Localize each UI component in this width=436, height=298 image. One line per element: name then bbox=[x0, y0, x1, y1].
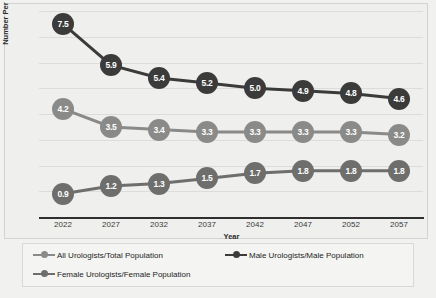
data-point-label: 4.8 bbox=[340, 82, 362, 104]
data-point-label: 3.3 bbox=[244, 121, 266, 143]
data-point-label: 5.4 bbox=[148, 67, 170, 89]
data-point-label: 4.6 bbox=[388, 88, 410, 110]
data-point-label: 1.7 bbox=[244, 162, 266, 184]
chart-page: Number Per 100,000 4.23.53.43.33.33.33.3… bbox=[0, 0, 436, 298]
legend-item-female-urologists: Female Urologists/Female Population bbox=[33, 269, 190, 279]
chart-legend: All Urologists/Total Population Female U… bbox=[22, 243, 414, 287]
data-point-label: 1.2 bbox=[100, 175, 122, 197]
x-tick-label: 2047 bbox=[278, 220, 328, 229]
data-point-label: 3.2 bbox=[388, 124, 410, 146]
chart-frame: Number Per 100,000 4.23.53.43.33.33.33.3… bbox=[4, 3, 428, 239]
plot-area: 4.23.53.43.33.33.33.33.27.55.95.45.25.04… bbox=[39, 11, 423, 217]
data-point-label: 4.2 bbox=[52, 98, 74, 120]
legend-marker-icon-all bbox=[33, 250, 55, 260]
legend-marker-icon-male bbox=[225, 250, 247, 260]
data-point-label: 5.0 bbox=[244, 77, 266, 99]
legend-item-male-urologists: Male Urologists/Male Population bbox=[225, 250, 364, 260]
x-axis-title: Year bbox=[39, 232, 424, 241]
series-lines bbox=[39, 11, 423, 217]
data-point-label: 3.4 bbox=[148, 119, 170, 141]
legend-label-all: All Urologists/Total Population bbox=[57, 251, 163, 260]
legend-label-male: Male Urologists/Male Population bbox=[249, 251, 364, 260]
data-point-label: 7.5 bbox=[52, 13, 74, 35]
data-point-label: 3.5 bbox=[100, 116, 122, 138]
x-axis-line bbox=[39, 217, 424, 219]
data-point-label: 3.3 bbox=[340, 121, 362, 143]
data-point-label: 5.2 bbox=[196, 72, 218, 94]
x-tick-label: 2052 bbox=[326, 220, 376, 229]
data-point-label: 3.3 bbox=[196, 121, 218, 143]
x-tick-label: 2037 bbox=[182, 220, 232, 229]
legend-item-all-urologists: All Urologists/Total Population bbox=[33, 250, 163, 260]
y-axis-title: Number Per 100,000 bbox=[1, 0, 10, 64]
legend-marker-icon-female bbox=[33, 269, 55, 279]
data-point-label: 1.5 bbox=[196, 167, 218, 189]
x-tick-label: 2032 bbox=[134, 220, 184, 229]
data-point-label: 1.8 bbox=[388, 160, 410, 182]
x-tick-label: 2022 bbox=[38, 220, 88, 229]
data-point-label: 1.3 bbox=[148, 173, 170, 195]
data-point-label: 3.3 bbox=[292, 121, 314, 143]
data-point-label: 0.9 bbox=[52, 183, 74, 205]
legend-label-female: Female Urologists/Female Population bbox=[57, 270, 190, 279]
x-tick-label: 2057 bbox=[374, 220, 424, 229]
data-point-label: 4.9 bbox=[292, 80, 314, 102]
data-point-label: 1.8 bbox=[340, 160, 362, 182]
data-point-label: 1.8 bbox=[292, 160, 314, 182]
x-tick-label: 2027 bbox=[86, 220, 136, 229]
data-point-label: 5.9 bbox=[100, 54, 122, 76]
x-tick-label: 2042 bbox=[230, 220, 280, 229]
